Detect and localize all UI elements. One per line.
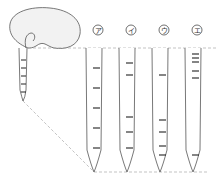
option-root-2: イ: [119, 25, 136, 172]
diagonal-dashed-line: [23, 101, 94, 172]
option-roots: アイウエ: [86, 25, 202, 172]
option-root-4: エ: [185, 25, 202, 172]
option-label: イ: [128, 27, 135, 35]
option-root-1: ア: [86, 25, 103, 172]
seedling-root: [19, 48, 27, 101]
root-outline: [119, 48, 135, 172]
root-outline: [86, 48, 102, 172]
option-label: エ: [194, 27, 201, 35]
seed-shape: [10, 8, 80, 49]
option-label: ウ: [161, 27, 168, 35]
option-label: ア: [95, 27, 102, 35]
root-outline: [185, 48, 201, 172]
diagram-canvas: アイウエ: [0, 0, 221, 188]
root-outline: [152, 48, 168, 172]
option-root-3: ウ: [152, 25, 169, 172]
root-diagram: アイウエ: [0, 0, 221, 188]
